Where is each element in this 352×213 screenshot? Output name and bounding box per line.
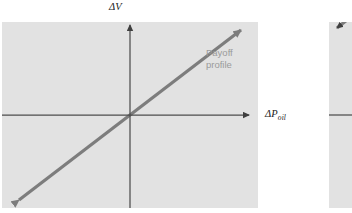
x-axis-label: ΔPoil: [265, 108, 286, 122]
payoff-profile-annotation: Payoff profile: [206, 47, 258, 70]
right-payoff-profile-line: [337, 22, 352, 28]
right-chart-plot: [329, 22, 352, 208]
right-chart-panel: [329, 22, 352, 208]
x-axis-label-main: ΔP: [265, 108, 278, 119]
x-axis-label-subscript: oil: [278, 113, 286, 122]
figure-root: ΔV ΔPoil Payoff profile: [0, 0, 352, 213]
y-axis-label: ΔV: [109, 1, 122, 12]
